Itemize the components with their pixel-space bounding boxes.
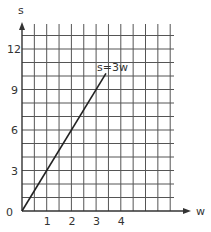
y-tick-label: 12 [7,43,21,56]
x-axis-arrow-icon [183,208,191,214]
line-chart: ws0123436912s=3w [0,0,211,232]
y-axis-label: s [18,4,24,17]
y-tick-label: 6 [11,124,18,137]
y-tick-label: 9 [11,84,18,97]
axes [19,22,191,214]
y-tick-label: 3 [11,165,18,178]
x-tick-label: 2 [68,215,75,228]
x-tick-label: 4 [118,215,125,228]
x-axis-label: w [196,205,205,218]
x-tick-label: 1 [44,215,51,228]
y-axis-arrow-icon [19,22,25,30]
grid-lines [22,24,174,211]
origin-label: 0 [6,206,13,219]
x-tick-label: 3 [93,215,100,228]
equation-label: s=3w [97,61,128,74]
